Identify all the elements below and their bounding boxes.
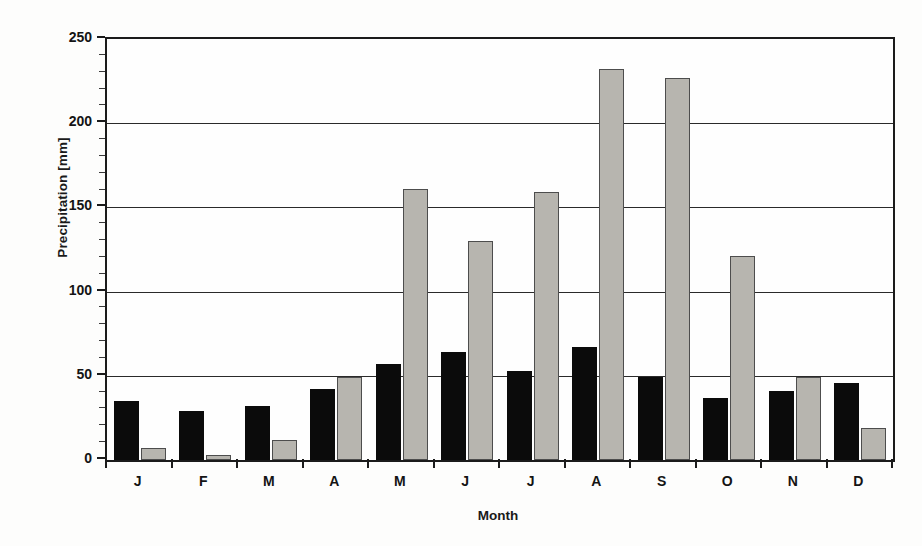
y-tick-mark bbox=[97, 289, 105, 291]
y-tick-label: 150 bbox=[46, 197, 92, 213]
bar-series-1 bbox=[441, 352, 466, 460]
bar-group bbox=[369, 39, 435, 460]
bar-group bbox=[173, 39, 239, 460]
x-tick-label: J bbox=[108, 473, 168, 489]
y-tick-label: 100 bbox=[46, 282, 92, 298]
x-axis-title: Month bbox=[105, 508, 891, 523]
x-tick-label: A bbox=[566, 473, 626, 489]
bar-group bbox=[107, 39, 173, 460]
bar-series-2 bbox=[403, 189, 428, 460]
x-tick-mark bbox=[498, 459, 500, 468]
bar-group bbox=[828, 39, 894, 460]
y-tick-mark bbox=[97, 204, 105, 206]
bar-series-1 bbox=[572, 347, 597, 460]
bar-group bbox=[631, 39, 697, 460]
bar-series-2 bbox=[665, 78, 690, 460]
bar-series-1 bbox=[507, 371, 532, 460]
bar-group bbox=[500, 39, 566, 460]
x-tick-mark bbox=[826, 459, 828, 468]
bar-series-1 bbox=[638, 377, 663, 460]
x-tick-mark bbox=[367, 459, 369, 468]
bar-group bbox=[697, 39, 763, 460]
bar-series-2 bbox=[337, 377, 362, 460]
bar-series-2 bbox=[272, 440, 297, 460]
y-axis-tick-group: 050100150200250 bbox=[0, 0, 105, 546]
x-tick-label: N bbox=[763, 473, 823, 489]
bar-series-2 bbox=[468, 241, 493, 460]
precipitation-bar-chart: Precipitation [mm] 050100150200250 JFMAM… bbox=[0, 0, 922, 546]
bar-group bbox=[435, 39, 501, 460]
x-tick-mark bbox=[302, 459, 304, 468]
y-tick-mark bbox=[97, 36, 105, 38]
bar-series-1 bbox=[703, 398, 728, 460]
x-tick-label: M bbox=[239, 473, 299, 489]
bar-series-1 bbox=[376, 364, 401, 460]
bar-series-2 bbox=[861, 428, 886, 460]
bar-series-2 bbox=[534, 192, 559, 460]
x-tick-mark bbox=[105, 459, 107, 468]
x-tick-label: O bbox=[697, 473, 757, 489]
bar-group bbox=[566, 39, 632, 460]
x-tick-mark bbox=[236, 459, 238, 468]
y-tick-label: 250 bbox=[46, 29, 92, 45]
x-tick-label: S bbox=[632, 473, 692, 489]
y-tick-mark bbox=[97, 457, 105, 459]
bar-series-1 bbox=[179, 411, 204, 460]
bar-series-2 bbox=[730, 256, 755, 460]
bar-series-1 bbox=[310, 389, 335, 460]
x-tick-mark bbox=[433, 459, 435, 468]
bar-series-1 bbox=[834, 383, 859, 460]
x-tick-mark bbox=[891, 459, 893, 468]
x-tick-label: F bbox=[173, 473, 233, 489]
bar-series-1 bbox=[769, 391, 794, 460]
bar-group bbox=[304, 39, 370, 460]
bar-series-2 bbox=[796, 377, 821, 460]
y-tick-label: 50 bbox=[46, 366, 92, 382]
y-tick-mark bbox=[97, 120, 105, 122]
x-tick-label: A bbox=[304, 473, 364, 489]
bar-series-2 bbox=[599, 69, 624, 460]
bar-series-1 bbox=[245, 406, 270, 460]
x-tick-mark bbox=[695, 459, 697, 468]
x-tick-mark bbox=[629, 459, 631, 468]
x-tick-label: D bbox=[828, 473, 888, 489]
x-tick-mark bbox=[564, 459, 566, 468]
x-tick-label: J bbox=[501, 473, 561, 489]
y-tick-mark bbox=[97, 373, 105, 375]
y-tick-label: 0 bbox=[46, 450, 92, 466]
x-tick-mark bbox=[171, 459, 173, 468]
x-tick-mark bbox=[760, 459, 762, 468]
bar-series-1 bbox=[114, 401, 139, 460]
bar-group bbox=[762, 39, 828, 460]
x-tick-label: M bbox=[370, 473, 430, 489]
plot-area bbox=[105, 37, 895, 462]
y-tick-label: 200 bbox=[46, 113, 92, 129]
x-tick-label: J bbox=[435, 473, 495, 489]
bar-group bbox=[238, 39, 304, 460]
